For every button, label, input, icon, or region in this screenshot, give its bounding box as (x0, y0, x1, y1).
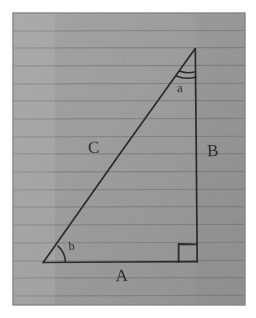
side-c-label: C (88, 138, 100, 158)
angle-b-label: b (68, 239, 75, 253)
side-b-label: B (207, 141, 219, 160)
side-a-label: A (115, 266, 129, 285)
notebook-paper-canvas: C B A a b (0, 0, 256, 318)
triangle-diagram-photo: C B A a b Right triangle with legs A and… (0, 0, 256, 318)
